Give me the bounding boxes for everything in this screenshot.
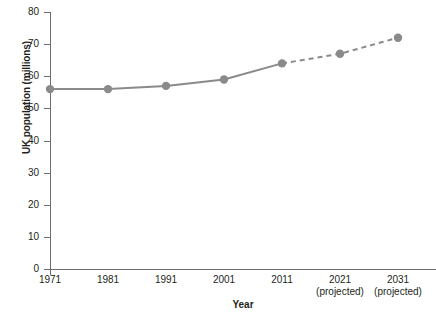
data-point-marker	[104, 85, 112, 93]
data-point-marker	[46, 85, 54, 93]
data-point-marker	[278, 59, 286, 67]
data-point-marker	[394, 34, 402, 42]
data-point-marker	[220, 75, 228, 83]
data-point-marker	[162, 82, 170, 90]
line-chart: UK population (millions) 010203040506070…	[0, 0, 436, 319]
x-axis-title: Year	[0, 299, 436, 310]
x-axis-title-text: Year	[232, 299, 253, 310]
data-point-marker-group	[46, 34, 402, 94]
data-point-marker	[336, 50, 344, 58]
series-layer	[0, 0, 436, 319]
